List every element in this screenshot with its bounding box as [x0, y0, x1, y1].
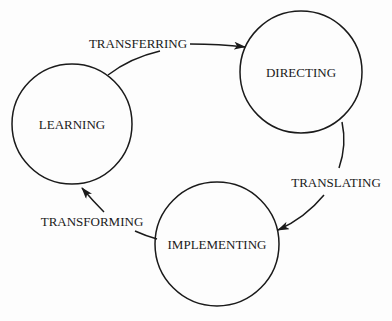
node-directing: DIRECTING	[240, 11, 362, 133]
translating-label: TRANSLATING	[291, 175, 381, 190]
node-implementing: IMPLEMENTING	[155, 182, 279, 306]
cycle-diagram: LEARNING DIRECTING IMPLEMENTING TRANSFER…	[0, 0, 392, 321]
directing-label: DIRECTING	[266, 65, 336, 80]
translating-arrow-icon	[278, 195, 324, 230]
transferring-label: TRANSFERRING	[89, 36, 187, 51]
implementing-label: IMPLEMENTING	[168, 237, 267, 252]
transforming-arrow-icon	[82, 188, 104, 212]
transferring-arrow-icon	[190, 44, 245, 47]
edge-transforming: TRANSFORMING	[41, 188, 157, 239]
edge-transferring: TRANSFERRING	[89, 36, 245, 75]
transforming-label: TRANSFORMING	[41, 214, 144, 229]
translating-curve	[339, 122, 344, 168]
edge-translating: TRANSLATING	[278, 122, 381, 230]
transforming-curve	[135, 231, 157, 239]
node-learning: LEARNING	[12, 64, 132, 184]
learning-label: LEARNING	[39, 117, 105, 132]
transferring-curve	[108, 51, 160, 75]
